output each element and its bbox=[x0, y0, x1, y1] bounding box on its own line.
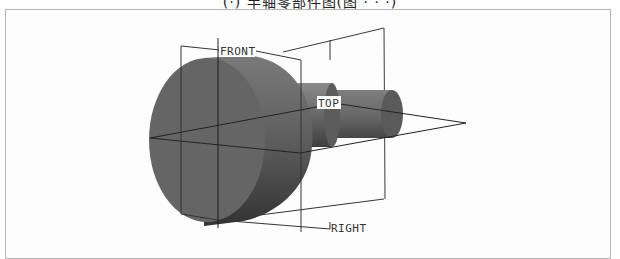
label-right-text: RIGHT bbox=[331, 222, 367, 235]
label-top-text: TOP bbox=[318, 97, 339, 110]
label-front-text: FRONT bbox=[220, 45, 256, 58]
label-front: FRONT bbox=[219, 44, 256, 58]
label-top: TOP bbox=[317, 96, 341, 110]
label-right: RIGHT bbox=[331, 222, 367, 235]
